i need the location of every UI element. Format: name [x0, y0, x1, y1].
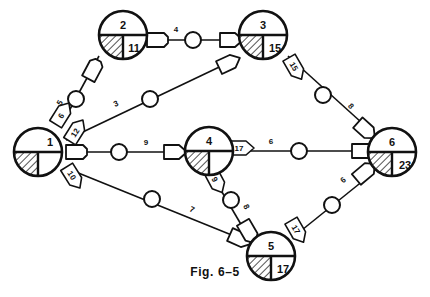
edge-tail-1-4: [66, 145, 87, 159]
edge-event-circle-1-2: [68, 91, 84, 107]
edge-event-circle-1-3: [142, 91, 158, 107]
edge-head-1-4: [164, 145, 187, 159]
edge-event-circle-3-6: [315, 87, 331, 103]
figure-caption: Fig. 6–5: [0, 265, 430, 279]
tag-10-node1-to-5: 10: [61, 163, 86, 192]
edge-head-1-2: [82, 57, 104, 82]
node-4-id: 4: [206, 135, 213, 147]
edge-group-1-4: 9: [66, 138, 187, 160]
node-2-id: 2: [120, 19, 126, 31]
edge-group-3-6: 8: [315, 87, 380, 143]
node-6-value: 23: [399, 159, 411, 171]
edge-duration-2-3: 4: [174, 25, 179, 34]
node-2-value: 11: [128, 42, 140, 54]
edge-group-4-6: 6: [269, 137, 373, 159]
network-diagram: 5 4 3 9 7: [0, 0, 430, 297]
edge-event-circle-1-4: [111, 144, 127, 160]
edge-duration-5-6: 6: [339, 175, 349, 185]
edge-duration-1-5: 7: [188, 205, 196, 215]
node-3[interactable]: 3 15: [239, 11, 287, 59]
node-1-id: 1: [47, 136, 53, 148]
node-1[interactable]: 1: [14, 128, 62, 176]
edge-duration-1-4: 9: [144, 138, 149, 147]
edge-duration-4-5: 8: [241, 203, 251, 212]
edge-tail-2-3: [147, 33, 168, 47]
edge-event-circle-5-6: [324, 197, 340, 213]
edge-group-1-2: 5: [55, 57, 105, 107]
tag-12-node1-to-3: 12: [64, 116, 89, 145]
node-5-id: 5: [268, 240, 274, 252]
figure-container: 5 4 3 9 7: [0, 0, 430, 297]
tag-15-node3-to-6: 15: [283, 54, 308, 83]
edge-group-5-6: 6: [324, 161, 377, 213]
edge-duration-1-3: 3: [112, 98, 120, 108]
edge-group-2-3: 4: [147, 25, 243, 48]
node-3-value: 15: [269, 42, 281, 54]
edge-event-circle-4-6: [291, 143, 307, 159]
node-3-id: 3: [260, 19, 266, 31]
tag-value: 17: [235, 144, 244, 153]
edge-event-circle-1-5: [144, 191, 160, 207]
edge-head-1-3: [216, 52, 243, 74]
edge-event-circle-2-3: [185, 32, 201, 48]
edge-duration-4-6: 6: [269, 137, 274, 146]
node-2[interactable]: 2 11: [99, 11, 147, 59]
edge-event-circle-4-5: [223, 192, 239, 208]
node-6[interactable]: 6 23: [368, 128, 416, 176]
node-4[interactable]: 4: [185, 127, 233, 175]
node-6-id: 6: [389, 136, 395, 148]
edge-group-1-3: 3: [112, 52, 243, 109]
